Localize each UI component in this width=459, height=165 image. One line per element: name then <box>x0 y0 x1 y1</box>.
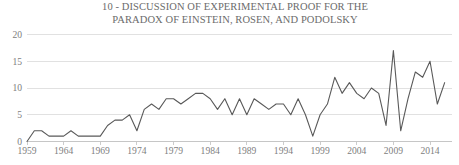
y-tick-label: 5 <box>17 109 22 120</box>
x-tick-label: 1969 <box>91 145 110 156</box>
chart-container: 10 - DISCUSSION OF EXPERIMENTAL PROOF FO… <box>0 0 459 165</box>
gridlines-group <box>27 35 452 142</box>
x-tick-label: 2009 <box>384 145 403 156</box>
y-tick-label: 20 <box>12 29 22 40</box>
x-tick-label: 2014 <box>420 145 439 156</box>
x-axis-tickmarks <box>27 142 430 145</box>
data-series-line <box>27 51 445 142</box>
x-axis-tick-labels: 1959196419691974197919841989199419992004… <box>17 145 439 156</box>
x-tick-label: 1994 <box>274 145 293 156</box>
x-tick-label: 1974 <box>127 145 146 156</box>
x-tick-label: 1989 <box>237 145 256 156</box>
y-tick-label: 10 <box>12 82 22 93</box>
x-tick-label: 1959 <box>17 145 36 156</box>
x-tick-label: 1999 <box>311 145 330 156</box>
x-tick-label: 1979 <box>164 145 183 156</box>
y-axis-tick-labels: 05101520 <box>12 29 22 147</box>
x-tick-label: 1964 <box>54 145 73 156</box>
x-tick-label: 2004 <box>347 145 366 156</box>
y-tick-label: 15 <box>12 56 22 67</box>
line-chart-plot: 05101520 1959196419691974197919841989199… <box>0 0 459 165</box>
x-tick-label: 1984 <box>201 145 220 156</box>
